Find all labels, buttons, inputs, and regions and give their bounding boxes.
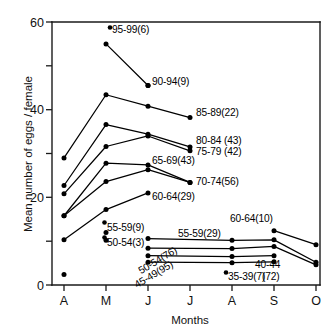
x-tick-label-sep: S [270,294,278,308]
data-point [188,148,193,153]
series-line-95-99(6) [106,44,148,86]
data-point [62,155,67,160]
ann-55-59-spring: 55-59(9) [107,222,144,233]
x-tick-label-jun: J [145,294,151,308]
data-point [188,115,193,120]
ann-70-74: 70-74(56) [196,176,239,187]
x-tick-label-jul: J [187,294,193,308]
y-tick-label-0: 0 [37,279,44,293]
data-point [104,41,109,46]
ann-35-39: 35-39(7) [228,271,265,282]
data-point [146,190,151,195]
data-point [146,246,151,251]
data-point [104,161,109,166]
ann-85-89: 85-89(22) [196,107,239,118]
data-point [230,260,235,265]
series-65-69(43) [62,161,193,219]
data-point [62,191,67,196]
ann-65-69: 65-69(43) [152,155,195,166]
x-tick-label-apr: A [60,294,69,308]
series-line-65-69(43) [64,163,190,216]
data-point [146,236,151,241]
x-tick-label-may: M [101,294,111,308]
ann-90-94: 90-94(9) [152,76,189,87]
data-point [146,162,151,167]
data-point [146,167,151,172]
ann-50-54-spring: 50-54(3) [107,237,144,248]
data-point [62,183,67,188]
data-point [314,242,319,247]
data-point [314,262,319,267]
ann-95-99: 95-99(6) [112,24,149,35]
data-point [230,238,235,243]
data-point [272,228,277,233]
x-tick-label-aug: A [228,294,237,308]
y-axis-title: Mean number of eggs / female [22,74,34,234]
data-point [230,246,235,251]
data-point [272,237,277,242]
axis-frame [52,22,320,285]
data-point [62,272,67,277]
egg-production-chart-figure: 60 40 20 0 A M J J A S O Months Mean num… [0,0,332,329]
data-point [104,144,109,149]
data-point [104,179,109,184]
data-point [188,180,193,185]
ann-60-64-autumn: 60-64(10) [230,213,273,224]
x-tick-marks [64,285,316,291]
data-series-layer [62,25,319,277]
series-line-85-89(22) [64,95,190,158]
ann-55-59-autumn: 55-59(29) [178,228,221,239]
data-point [146,133,151,138]
y-tick-label-60: 60 [30,16,44,30]
data-point [104,207,109,212]
data-point [62,213,67,218]
series-90-94(9) [146,83,151,88]
ann-80-84: 80-84 (43) [196,135,242,146]
x-axis-title: Months [171,314,209,326]
data-point [146,83,151,88]
ann-75-79: 75-79 (42) [196,146,242,157]
data-point [230,254,235,259]
data-point [272,244,277,249]
y-tick-marks [46,22,52,285]
series-60-64(10) [272,228,319,247]
series-95-99(6) [104,41,151,88]
series-35-39(7) [62,272,67,277]
data-point [146,104,151,109]
data-point [62,237,67,242]
series-85-89(22) [62,92,193,160]
ann-40-44-line1: 40-44 [255,259,280,270]
data-point [104,92,109,97]
ann-60-64-spring: 60-64(29) [152,191,195,202]
data-point [272,253,277,258]
data-point [104,122,109,127]
x-tick-label-oct: O [311,294,321,308]
